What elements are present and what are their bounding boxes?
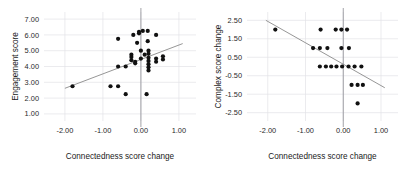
data-point (352, 64, 356, 68)
data-point (325, 46, 329, 50)
x-tick-label: 1.00 (374, 126, 388, 135)
data-point (146, 68, 150, 72)
y-axis-tick-labels: -2.50-1.50-0.500.501.502.50 (225, 16, 242, 117)
data-points (70, 29, 165, 96)
y-tick-label: 2.00 (25, 94, 39, 103)
data-point (135, 41, 139, 45)
data-point (131, 33, 135, 37)
data-point (318, 64, 322, 68)
y-axis-title: Engagement score (11, 32, 20, 101)
y-axis-tick-labels: 1.002.003.004.005.006.007.00 (25, 15, 39, 119)
x-tick-label: -2.00 (259, 126, 276, 135)
x-tick-label: 0.00 (336, 126, 350, 135)
data-point (146, 39, 150, 43)
data-point (70, 84, 74, 88)
y-tick-label: 0.50 (228, 53, 242, 62)
data-point (334, 64, 338, 68)
x-tick-label: 1.00 (172, 126, 186, 135)
y-tick-label: 6.00 (25, 31, 39, 40)
chart-svg-complex-vs-connectedness: -2.50-1.50-0.500.501.502.50-2.00-1.000.0… (203, 0, 405, 181)
scatter-plot-figure: 1.002.003.004.005.006.007.00-2.00-1.000.… (0, 0, 405, 181)
data-point (273, 27, 277, 31)
y-tick-label: 4.00 (25, 62, 39, 71)
y-tick-label: 1.00 (25, 109, 39, 118)
data-point (319, 27, 323, 31)
data-point (154, 33, 158, 37)
data-point (361, 83, 365, 87)
x-tick-label: 0.00 (134, 126, 148, 135)
data-point (137, 31, 141, 35)
y-tick-label: -1.50 (225, 90, 242, 99)
data-point (145, 92, 149, 96)
y-axis-title: Complex score change (214, 24, 223, 108)
x-tick-label: -1.00 (94, 126, 111, 135)
data-point (124, 64, 128, 68)
data-point (349, 83, 353, 87)
gridlines (247, 12, 398, 121)
data-point (139, 57, 143, 61)
data-point (146, 29, 150, 33)
data-point (116, 37, 120, 41)
data-point (146, 52, 150, 56)
data-point (339, 46, 343, 50)
data-point (133, 61, 137, 65)
x-axis-title: Connectedness score change (66, 152, 175, 161)
data-point (356, 101, 360, 105)
y-tick-label: -2.50 (225, 108, 242, 117)
data-point (347, 46, 351, 50)
data-point (108, 84, 112, 88)
data-points (273, 27, 365, 105)
data-point (334, 27, 338, 31)
data-point (116, 64, 120, 68)
y-tick-label: 1.50 (228, 34, 242, 43)
data-point (161, 57, 165, 61)
data-point (346, 64, 350, 68)
y-tick-label: 5.00 (25, 46, 39, 55)
x-tick-label: -2.00 (56, 126, 73, 135)
data-point (356, 83, 360, 87)
chart-svg-engagement-vs-connectedness: 1.002.003.004.005.006.007.00-2.00-1.000.… (0, 0, 203, 181)
data-point (318, 46, 322, 50)
y-tick-label: 3.00 (25, 78, 39, 87)
x-axis-tick-labels: -2.00-1.000.001.00 (56, 126, 186, 135)
data-point (311, 46, 315, 50)
x-tick-label: -1.00 (297, 126, 314, 135)
data-point (141, 29, 145, 33)
data-point (143, 53, 147, 57)
data-point (124, 92, 128, 96)
data-point (339, 27, 343, 31)
trendline (266, 20, 385, 87)
data-point (340, 64, 344, 68)
data-point (359, 64, 363, 68)
chart-panel-complex: -2.50-1.50-0.500.501.502.50-2.00-1.000.0… (203, 0, 405, 181)
data-point (139, 49, 143, 53)
x-axis-title: Connectedness score change (268, 152, 377, 161)
y-tick-label: -0.50 (225, 71, 242, 80)
x-axis-tick-labels: -2.00-1.000.001.00 (259, 126, 388, 135)
data-point (116, 84, 120, 88)
data-point (324, 64, 328, 68)
data-point (329, 64, 333, 68)
data-point (154, 60, 158, 64)
y-tick-label: 7.00 (25, 15, 39, 24)
data-point (345, 27, 349, 31)
data-point (129, 58, 133, 62)
y-tick-label: 2.50 (228, 16, 242, 25)
chart-panel-engagement: 1.002.003.004.005.006.007.00-2.00-1.000.… (0, 0, 203, 181)
